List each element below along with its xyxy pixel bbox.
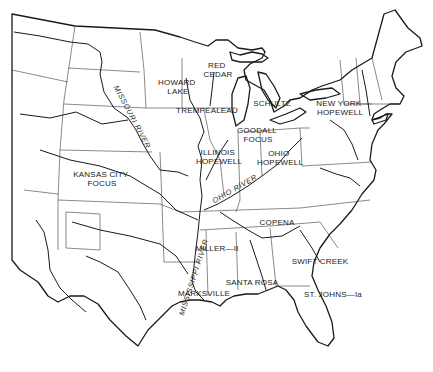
potomac-river-line: [320, 168, 360, 186]
site-label-trempealeau: TREMPEALEAU: [176, 106, 238, 115]
rio-grande-line: [36, 220, 86, 312]
site-label-st-johns-ia: ST. JOHNS—Ia: [304, 290, 362, 299]
site-label-red-cedar: RED CEDAR: [203, 61, 232, 79]
site-label-ohio-hopewell: OHIO HOPEWELL: [257, 149, 303, 167]
river-label-ohio: OHIO RIVER: [211, 172, 259, 205]
missouri-river-line: [14, 32, 188, 176]
river-label-mississippi: MISSISSIPPI RIVER: [177, 238, 210, 317]
red-river-line: [72, 222, 188, 274]
brazos-river-line: [86, 256, 146, 320]
map-eastern-us: HOWARD LAKE RED CEDAR TREMPEALEAU SCHULT…: [0, 0, 433, 372]
site-label-schultz: SCHULTZ: [253, 99, 291, 108]
site-label-new-york-hopewell: NEW YORK HOPEWELL: [316, 99, 363, 117]
site-label-illinois-hopewell: ILLINOIS HOPEWELL: [196, 148, 242, 166]
site-label-santa-rosa: SANTA ROSA: [226, 278, 279, 287]
platte-river-line: [20, 112, 128, 124]
map-canvas: HOWARD LAKE RED CEDAR TREMPEALEAU SCHULT…: [0, 0, 433, 372]
site-label-howard-lake: HOWARD LAKE: [158, 78, 198, 96]
site-label-copena: COPENA: [260, 218, 295, 227]
susquehanna-river-line: [330, 120, 358, 160]
hudson-river-line: [362, 70, 370, 116]
river-label-missouri: MISSOURI RIVER: [112, 84, 153, 150]
site-label-goodall-focus: GOODALL FOCUS: [237, 126, 279, 144]
site-label-swift-creek: SWIFT CREEK: [292, 257, 349, 266]
site-label-kansas-city-focus: KANSAS CITY FOCUS: [73, 170, 130, 188]
